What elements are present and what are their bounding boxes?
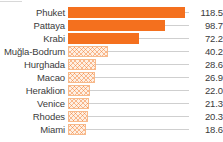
bar — [68, 72, 95, 83]
category-label: Rhodes — [0, 111, 68, 122]
bar-row: Miami18.6 — [0, 123, 223, 136]
value-label: 22.0 — [190, 84, 223, 97]
bar-track: 18.6 — [68, 123, 223, 136]
bar-track: 26.9 — [68, 71, 223, 84]
value-label: 40.2 — [190, 45, 223, 58]
category-label: Krabi — [0, 33, 68, 44]
bar-row: Heraklion22.0 — [0, 84, 223, 97]
bar-row: Hurghada28.6 — [0, 58, 223, 71]
bar — [68, 59, 96, 70]
value-label: 28.6 — [190, 58, 223, 71]
bar — [68, 46, 108, 57]
category-label: Heraklion — [0, 85, 68, 96]
value-label: 98.7 — [190, 19, 223, 32]
bar — [68, 85, 90, 96]
bar-track: 28.6 — [68, 58, 223, 71]
value-label: 18.6 — [190, 123, 223, 136]
bar-row: Phuket118.5 — [0, 6, 223, 19]
bar-row: Krabi72.2 — [0, 32, 223, 45]
category-label: Phuket — [0, 7, 68, 18]
bar — [68, 98, 89, 109]
bar-row: Venice21.3 — [0, 97, 223, 110]
value-label: 72.2 — [190, 32, 223, 45]
bar-track: 21.3 — [68, 97, 223, 110]
bar-row: Muğla-Bodrum40.2 — [0, 45, 223, 58]
category-label: Macao — [0, 72, 68, 83]
bar — [68, 124, 86, 135]
category-label: Miami — [0, 124, 68, 135]
value-label: 26.9 — [190, 71, 223, 84]
bar — [68, 33, 139, 44]
bar — [68, 7, 185, 18]
bar-row: Pattaya98.7 — [0, 19, 223, 32]
category-label: Pattaya — [0, 20, 68, 31]
category-label: Venice — [0, 98, 68, 109]
top-divider — [0, 1, 22, 2]
bar-track: 118.5 — [68, 6, 223, 19]
bar-track: 40.2 — [68, 45, 223, 58]
bar-track: 22.0 — [68, 84, 223, 97]
bar-row: Rhodes20.3 — [0, 110, 223, 123]
value-label: 21.3 — [190, 97, 223, 110]
bar-track: 72.2 — [68, 32, 223, 45]
bar-track: 98.7 — [68, 19, 223, 32]
value-label: 20.3 — [190, 110, 223, 123]
value-label: 118.5 — [190, 6, 223, 19]
horizontal-bar-chart: Phuket118.5Pattaya98.7Krabi72.2Muğla-Bod… — [0, 0, 223, 142]
bar-track: 20.3 — [68, 110, 223, 123]
bar-rows: Phuket118.5Pattaya98.7Krabi72.2Muğla-Bod… — [0, 6, 223, 136]
bar — [68, 20, 165, 31]
category-label: Hurghada — [0, 59, 68, 70]
bar — [68, 111, 88, 122]
bar-row: Macao26.9 — [0, 71, 223, 84]
category-label: Muğla-Bodrum — [0, 46, 68, 57]
